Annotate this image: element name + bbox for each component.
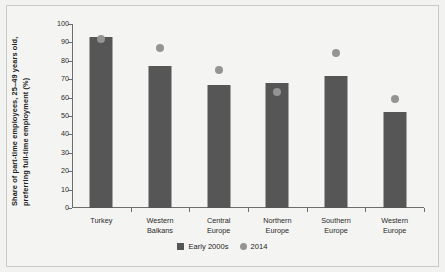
data-group [365, 24, 424, 208]
y-tick-label: 0 [65, 203, 69, 212]
x-category-label-line: Central [189, 216, 248, 226]
y-tick-label: 70 [61, 74, 69, 83]
legend-item[interactable]: Early 2000s [177, 242, 228, 251]
bar-early-2000s [383, 112, 406, 208]
y-tick-label: 50 [61, 111, 69, 120]
legend-square-icon [177, 243, 184, 250]
data-group [189, 24, 248, 208]
y-tick-label: 60 [61, 93, 69, 102]
y-axis-title-line-2: preferring full-time employment (%) [22, 14, 29, 206]
y-tick-label: 20 [61, 166, 69, 175]
plot-area: 1009080706050403020100 TurkeyWesternBalk… [72, 24, 424, 208]
legend-label: Early 2000s [188, 242, 228, 251]
bar-early-2000s [90, 37, 113, 208]
dot-2014 [215, 66, 223, 74]
y-tick-label: 10 [61, 185, 69, 194]
y-tick-label: 100 [57, 19, 69, 28]
x-tick-mark [365, 208, 366, 212]
x-category-label-line: Europe [307, 226, 366, 236]
data-group [248, 24, 307, 208]
bar-early-2000s [324, 76, 347, 208]
data-group [307, 24, 366, 208]
bar-early-2000s [148, 66, 171, 208]
x-tick-mark [131, 208, 132, 212]
x-tick-mark [189, 208, 190, 212]
y-tick-label: 80 [61, 56, 69, 65]
x-category-label: NorthernEurope [248, 216, 307, 235]
data-group [131, 24, 190, 208]
y-tick-label: 30 [61, 148, 69, 157]
x-category-label-line: Western [131, 216, 190, 226]
x-category-label-line: Northern [248, 216, 307, 226]
legend-circle-icon [240, 243, 247, 250]
y-tick-label: 40 [61, 129, 69, 138]
x-tick-mark [424, 208, 425, 212]
x-tick-mark [307, 208, 308, 212]
x-category-label: WesternEurope [365, 216, 424, 235]
x-category-label: CentralEurope [189, 216, 248, 235]
x-category-label-line: Europe [189, 226, 248, 236]
x-tick-mark [248, 208, 249, 212]
y-tick-label: 90 [61, 37, 69, 46]
chart-legend: Early 2000s2014 [0, 242, 445, 251]
x-category-label-line: Europe [248, 226, 307, 236]
x-category-label: Turkey [72, 216, 131, 226]
x-category-label-line: Europe [365, 226, 424, 236]
x-category-label: WesternBalkans [131, 216, 190, 235]
x-category-label-line: Western [365, 216, 424, 226]
y-axis-title: Share of part-time employees, 25–49 year… [10, 14, 44, 206]
dot-2014 [391, 95, 399, 103]
x-category-label-line: Southern [307, 216, 366, 226]
bar-early-2000s [207, 85, 230, 208]
legend-item[interactable]: 2014 [240, 242, 268, 251]
legend-label: 2014 [251, 242, 268, 251]
x-category-label-line: Balkans [131, 226, 190, 236]
chart-figure: Share of part-time employees, 25–49 year… [0, 0, 445, 272]
x-category-label: SouthernEurope [307, 216, 366, 235]
bar-early-2000s [266, 83, 289, 208]
dot-2014 [156, 44, 164, 52]
dot-2014 [332, 49, 340, 57]
x-category-label-line: Turkey [72, 216, 131, 226]
data-group [72, 24, 131, 208]
y-axis-title-line-1: Share of part-time employees, 25–49 year… [11, 14, 18, 206]
